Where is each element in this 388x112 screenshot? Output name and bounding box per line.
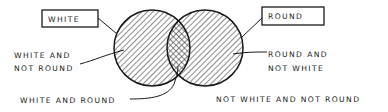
round-label-leader [242,18,262,37]
white-only-label-line2: NOT ROUND [14,64,74,73]
venn-diagram: WHITE ROUND WHITE AND NOT ROUND ROUND AN… [0,0,388,112]
outside-label: NOT WHITE AND NOT ROUND [216,95,360,104]
intersection-label: WHITE AND ROUND [20,96,116,105]
round-only-label-line2: NOT WHITE [268,64,324,73]
white-label: WHITE [48,15,80,24]
white-only-label-line1: WHITE AND [14,51,71,60]
round-only-label-line1: ROUND AND [268,50,328,59]
round-label: ROUND [268,12,303,21]
white-label-leader [98,18,117,34]
